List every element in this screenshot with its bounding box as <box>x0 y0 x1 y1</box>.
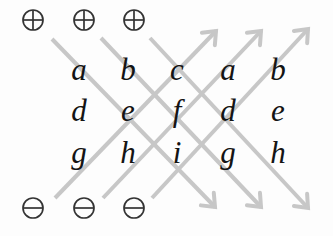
matrix-entry: i <box>173 135 182 170</box>
matrix-entry: a <box>220 52 236 87</box>
matrix-entry: b <box>270 52 286 87</box>
matrix-entry: c <box>170 52 184 87</box>
matrix-entry: g <box>71 135 87 170</box>
matrix-entry: a <box>71 52 87 87</box>
circled-plus-icon <box>74 10 94 30</box>
matrix-entry: d <box>71 93 87 128</box>
matrix-entry: g <box>220 135 236 170</box>
matrix-entry: h <box>120 135 136 170</box>
sarrus-rule-diagram: a b c a b d e f d e g h i g h <box>0 0 333 236</box>
matrix-entry: d <box>220 93 236 128</box>
matrix-entry: h <box>270 135 286 170</box>
matrix-entry: b <box>120 52 136 87</box>
circled-minus-icon <box>124 198 144 218</box>
diagram-canvas: a b c a b d e f d e g h i g h <box>0 0 333 236</box>
circled-plus-icon <box>23 10 43 30</box>
plus-markers-row <box>23 10 144 30</box>
minus-markers-row <box>23 198 144 218</box>
circled-plus-icon <box>124 10 144 30</box>
circled-minus-icon <box>23 198 43 218</box>
matrix-entry: e <box>121 93 135 128</box>
circled-minus-icon <box>74 198 94 218</box>
matrix-entry: e <box>271 93 285 128</box>
